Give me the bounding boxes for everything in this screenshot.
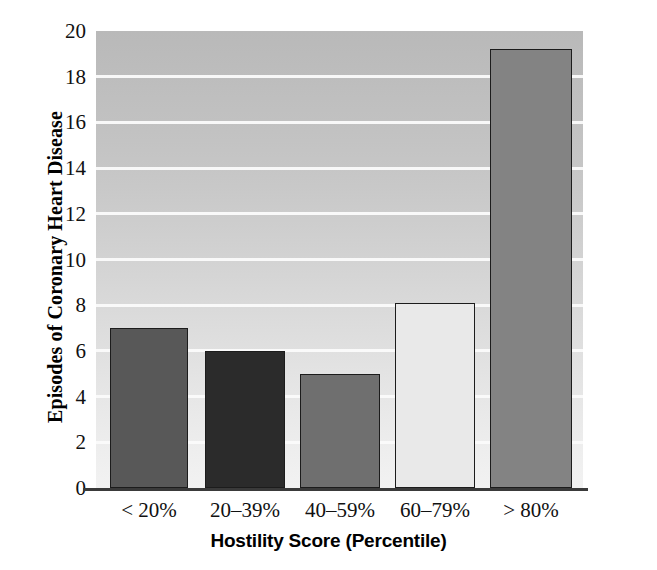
y-tick-label: 2 (40, 432, 86, 453)
bar (490, 49, 572, 488)
plot-area (96, 31, 583, 488)
bar (110, 328, 188, 488)
bar-chart-figure: Episodes of Coronary Heart Disease 02468… (0, 0, 657, 570)
y-tick-label: 20 (40, 21, 86, 42)
x-tick-label: 40–59% (288, 498, 392, 523)
y-tick-label: 16 (40, 112, 86, 133)
x-tick-label: < 20% (98, 498, 200, 523)
bar (395, 303, 475, 488)
x-axis-tick-labels: < 20%20–39%40–59%60–79%> 80% (96, 498, 583, 532)
y-tick-label: 6 (40, 340, 86, 361)
y-tick-label: 12 (40, 203, 86, 224)
x-axis-line (83, 488, 588, 491)
y-tick-label: 14 (40, 158, 86, 179)
y-axis-tick-labels: 02468101214161820 (40, 0, 86, 570)
x-tick-label: 60–79% (383, 498, 487, 523)
x-tick-label: > 80% (478, 498, 584, 523)
y-tick-label: 8 (40, 295, 86, 316)
x-tick-label: 20–39% (193, 498, 297, 523)
x-axis-title: Hostility Score (Percentile) (0, 530, 657, 552)
bar (300, 374, 380, 488)
y-tick-label: 10 (40, 249, 86, 270)
y-tick-label: 18 (40, 66, 86, 87)
y-tick-label: 0 (40, 478, 86, 499)
bar (205, 351, 285, 488)
y-tick-label: 4 (40, 386, 86, 407)
